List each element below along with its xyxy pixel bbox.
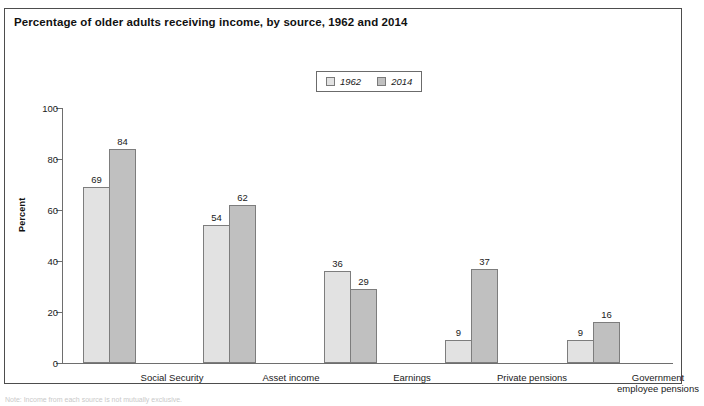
y-tick-0: 0	[62, 363, 68, 364]
plot-area: 020406080100698454623629937916	[62, 108, 666, 363]
legend-item-2014[interactable]: 2014	[377, 77, 412, 87]
bar[interactable]: 29	[350, 289, 377, 363]
chart-title: Percentage of older adults receiving inc…	[14, 16, 408, 28]
bars-row: 937	[445, 108, 498, 363]
y-tick-100: 100	[62, 108, 68, 109]
bar[interactable]: 37	[471, 269, 498, 363]
y-tick-label: 20	[47, 307, 58, 318]
category-label: Earnings	[342, 372, 482, 383]
figure-footnote: Note: Income from each source is not mut…	[5, 396, 182, 405]
legend-item-1962[interactable]: 1962	[326, 77, 361, 87]
y-tick-label: 80	[47, 154, 58, 165]
bar[interactable]: 16	[593, 322, 620, 363]
bar[interactable]: 36	[324, 271, 351, 363]
bar-value-label: 69	[91, 174, 102, 185]
y-tick-60: 60	[62, 210, 68, 211]
legend-swatch-1962	[326, 77, 335, 86]
bar-value-label: 54	[211, 212, 222, 223]
bars-row: 6984	[83, 108, 136, 363]
bar[interactable]: 69	[83, 187, 110, 363]
x-axis-line	[62, 363, 673, 364]
bar[interactable]: 9	[567, 340, 594, 363]
bar-value-label: 37	[479, 256, 490, 267]
y-tick-label: 60	[47, 205, 58, 216]
bar-value-label: 9	[456, 327, 461, 338]
y-tick-80: 80	[62, 159, 68, 160]
y-tick-label: 0	[53, 358, 58, 369]
bar-value-label: 9	[578, 327, 583, 338]
bar[interactable]: 54	[203, 225, 230, 363]
legend-label-2014: 2014	[391, 77, 412, 87]
y-tick-40: 40	[62, 261, 68, 262]
chart-legend: 1962 2014	[316, 71, 422, 92]
bar[interactable]: 84	[109, 149, 136, 363]
legend-swatch-2014	[377, 77, 386, 86]
bar[interactable]: 62	[229, 205, 256, 363]
bar-value-label: 62	[237, 192, 248, 203]
bars-row: 916	[567, 108, 620, 363]
y-axis-title: Percent	[17, 198, 27, 232]
category-label: Asset income	[221, 372, 361, 383]
legend-label-1962: 1962	[340, 77, 361, 87]
bars-row: 5462	[203, 108, 256, 363]
category-label: Private pensions	[462, 372, 602, 383]
bars-row: 3629	[324, 108, 377, 363]
y-tick-20: 20	[62, 312, 68, 313]
bar-value-label: 16	[601, 309, 612, 320]
category-label: Government employee pensions	[588, 372, 704, 394]
y-tick-label: 40	[47, 256, 58, 267]
bar-value-label: 36	[332, 258, 343, 269]
bar-value-label: 29	[358, 276, 369, 287]
y-tick-label: 100	[42, 103, 58, 114]
bar-value-label: 84	[117, 136, 128, 147]
bar[interactable]: 9	[445, 340, 472, 363]
